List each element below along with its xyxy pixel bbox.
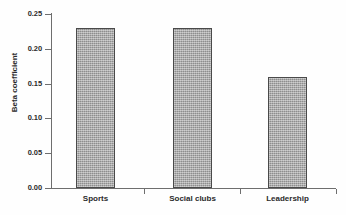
plot-area bbox=[51, 14, 336, 188]
y-axis-tick-label: 0.10 bbox=[8, 114, 42, 122]
x-axis-category-label: Social clubs bbox=[143, 194, 243, 204]
y-axis-tick-label: 0.00 bbox=[8, 184, 42, 192]
y-axis-tick-label: 0.15 bbox=[8, 80, 42, 88]
bar-chart: Beta coefficient 0.250.200.150.100.050.0… bbox=[0, 0, 346, 215]
bar bbox=[173, 28, 212, 188]
bar bbox=[268, 77, 307, 188]
y-axis-tick-label: 0.25 bbox=[8, 10, 42, 18]
x-axis-line bbox=[51, 188, 336, 189]
x-axis-category-label: Leadership bbox=[238, 194, 338, 204]
y-axis-tick-label: 0.20 bbox=[8, 45, 42, 53]
bar bbox=[76, 28, 115, 188]
y-axis-tick bbox=[45, 188, 51, 189]
y-axis-tick-label: 0.05 bbox=[8, 149, 42, 157]
x-axis-category-label: Sports bbox=[46, 194, 146, 204]
